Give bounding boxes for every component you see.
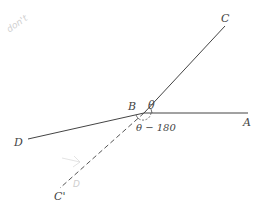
label-b: B (127, 100, 136, 113)
ray-bc (144, 26, 225, 113)
ray-bd (28, 113, 144, 139)
label-a: A (242, 116, 251, 129)
label-c: C (221, 12, 230, 25)
label-theta: θ (148, 99, 155, 112)
handwritten-letter: D (73, 179, 80, 189)
diagram-canvas: don't D C A B θ θ − 180 D C' (0, 0, 264, 213)
label-c-prime: C' (54, 190, 65, 203)
handwritten-arrow-mark (62, 156, 80, 167)
ray-bc-prime-dashed (60, 113, 144, 188)
label-d: D (13, 136, 23, 149)
handwritten-watermark: don't (5, 13, 30, 35)
label-theta-minus-180: θ − 180 (136, 122, 176, 133)
